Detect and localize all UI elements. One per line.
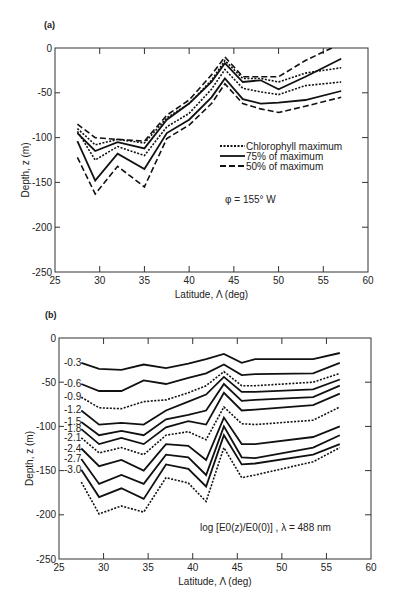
y-tick-label: -100 [32, 132, 52, 143]
y-tick-label: -50 [38, 87, 53, 98]
x-axis-title: Latitude, Λ (deg) [175, 289, 248, 300]
x-tick-label: 50 [273, 275, 285, 286]
curve-label: -2.1 [64, 432, 82, 443]
y-tick-label: 0 [46, 43, 52, 54]
y-tick-label: 0 [50, 333, 56, 344]
series-line [81, 353, 340, 370]
irradiance-annotation: log [E0(z)/E0(0)] , λ = 488 nm [200, 522, 331, 533]
x-tick-label: 35 [143, 562, 155, 573]
curve-label: -1.2 [64, 404, 82, 415]
chart-a: 25303540455055600-50-100-150-200-250Lati… [0, 0, 397, 300]
x-tick-label: 60 [362, 275, 374, 286]
series-line [77, 61, 341, 145]
curve-label: -3.0 [64, 464, 82, 475]
y-tick-label: -150 [32, 177, 52, 188]
chart-b: 25303540455055600-50-100-150-200-250Lati… [0, 300, 397, 613]
x-tick-label: 40 [187, 562, 199, 573]
y-axis-title: Depth, z (m) [20, 142, 31, 197]
y-tick-label: -200 [36, 509, 56, 520]
x-axis-title: Latitude, Λ (deg) [178, 576, 251, 587]
y-tick-label: -250 [36, 554, 56, 565]
y-tick-label: -200 [32, 222, 52, 233]
curve-label: -0.3 [64, 357, 82, 368]
y-tick-label: -150 [36, 465, 56, 476]
x-tick-label: 35 [139, 275, 151, 286]
x-tick-label: 45 [228, 275, 240, 286]
series-line [81, 393, 340, 444]
x-tick-label: 50 [276, 562, 288, 573]
curve-label: -2.4 [64, 443, 82, 454]
x-tick-label: 45 [232, 562, 244, 573]
y-axis-title: Depth, z (m) [24, 431, 35, 486]
curve-label: -2.7 [64, 453, 82, 464]
series-line [81, 363, 340, 391]
x-tick-label: 60 [365, 562, 377, 573]
x-tick-label: 40 [184, 275, 196, 286]
legend-label: 50% of maximum [246, 161, 323, 172]
series-line [81, 448, 340, 514]
curve-label: -0.6 [64, 378, 82, 389]
x-tick-label: 55 [321, 562, 333, 573]
y-tick-label: -100 [36, 421, 56, 432]
x-tick-label: 55 [318, 275, 330, 286]
x-tick-label: 30 [98, 562, 110, 573]
x-tick-label: 30 [94, 275, 106, 286]
y-tick-label: -250 [32, 267, 52, 278]
curve-label: -0.9 [64, 391, 82, 402]
y-tick-label: -50 [42, 377, 57, 388]
longitude-annotation: φ = 155° W [225, 194, 276, 205]
